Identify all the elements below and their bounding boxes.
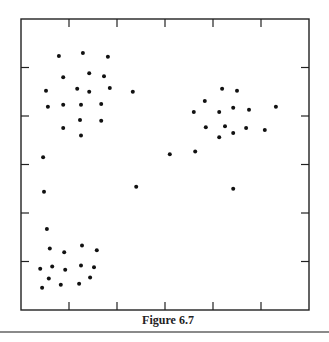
data-point	[99, 102, 103, 106]
data-point	[134, 185, 138, 189]
data-point	[231, 187, 235, 191]
axis-ticks	[21, 19, 309, 310]
data-point	[220, 87, 224, 91]
data-point	[59, 283, 63, 287]
data-point	[87, 90, 91, 94]
data-point	[44, 89, 48, 93]
data-point	[223, 124, 227, 128]
data-point	[79, 103, 83, 107]
data-point	[193, 149, 197, 153]
data-point	[45, 227, 49, 231]
data-point	[46, 105, 50, 109]
data-point	[79, 133, 83, 137]
data-point	[38, 267, 42, 271]
data-point	[75, 87, 79, 91]
data-point	[192, 110, 196, 114]
figure-caption: Figure 6.7	[0, 313, 329, 328]
data-point	[244, 126, 248, 130]
data-point	[231, 106, 235, 110]
data-point	[81, 51, 85, 55]
data-point	[61, 126, 65, 130]
plot-frame	[21, 19, 309, 310]
data-points	[38, 51, 278, 290]
data-point	[40, 286, 44, 290]
scatter-plot	[0, 0, 329, 342]
data-point	[88, 276, 92, 280]
data-point	[80, 244, 84, 248]
data-point	[217, 135, 221, 139]
data-point	[41, 155, 45, 159]
data-point	[48, 246, 52, 250]
data-point	[50, 264, 54, 268]
data-point	[106, 55, 110, 59]
horizontal-rule	[0, 331, 329, 333]
data-point	[57, 54, 61, 58]
data-point	[47, 277, 51, 281]
data-point	[108, 86, 112, 90]
data-point	[78, 118, 82, 122]
data-point	[204, 125, 208, 129]
data-point	[61, 75, 65, 79]
data-point	[62, 250, 66, 254]
data-point	[247, 108, 251, 112]
data-point	[274, 105, 278, 109]
data-point	[87, 71, 91, 75]
data-point	[131, 90, 135, 94]
data-point	[61, 103, 65, 107]
data-point	[95, 248, 99, 252]
data-point	[203, 99, 207, 103]
data-point	[168, 152, 172, 156]
data-point	[79, 263, 83, 267]
data-point	[42, 190, 46, 194]
data-point	[77, 282, 81, 286]
data-point	[217, 110, 221, 114]
data-point	[99, 119, 103, 123]
data-point	[102, 74, 106, 78]
data-point	[263, 128, 267, 132]
data-point	[231, 131, 235, 135]
data-point	[63, 268, 67, 272]
data-point	[92, 265, 96, 269]
data-point	[235, 89, 239, 93]
